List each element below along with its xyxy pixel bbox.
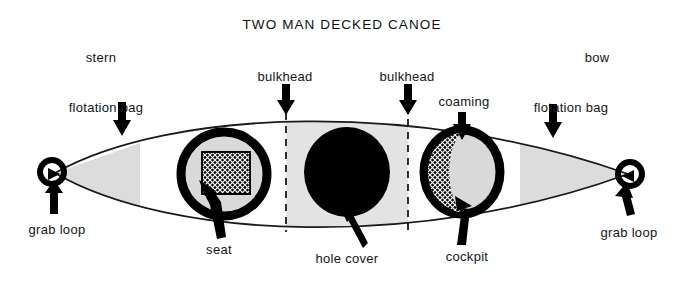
label-stern: stern	[86, 51, 116, 64]
label-bow: bow	[585, 51, 610, 64]
label-grab-loop-bow: grab loop	[601, 226, 658, 239]
grab-loop-stern-group	[40, 160, 64, 214]
hole-cover-group	[304, 127, 390, 248]
label-flotation-bag-bow: flotation bag	[534, 101, 609, 114]
label-bulkhead-right: bulkhead	[379, 70, 434, 83]
label-cockpit: cockpit	[446, 250, 489, 263]
label-flotation-bag-stern: flotation bag	[69, 101, 144, 114]
grab-loop-bow-group	[615, 162, 642, 216]
label-coaming: coaming	[438, 95, 489, 108]
forward-cockpit-group	[424, 130, 500, 245]
canoe-diagram: TWO MAN DECKED CANOE stern bow flotation…	[0, 0, 684, 281]
grab-loop-stern-tail	[48, 168, 60, 180]
bulkhead-right-leader	[399, 84, 417, 115]
page-title: TWO MAN DECKED CANOE	[242, 18, 441, 32]
label-seat: seat	[206, 243, 232, 256]
label-grab-loop-stern: grab loop	[29, 223, 86, 236]
label-hole-cover: hole cover	[316, 252, 379, 265]
canoe-illustration	[0, 0, 684, 281]
hole-cover-shape	[304, 127, 390, 217]
label-bulkhead-left: bulkhead	[257, 70, 312, 83]
bulkhead-left-leader	[277, 84, 295, 115]
